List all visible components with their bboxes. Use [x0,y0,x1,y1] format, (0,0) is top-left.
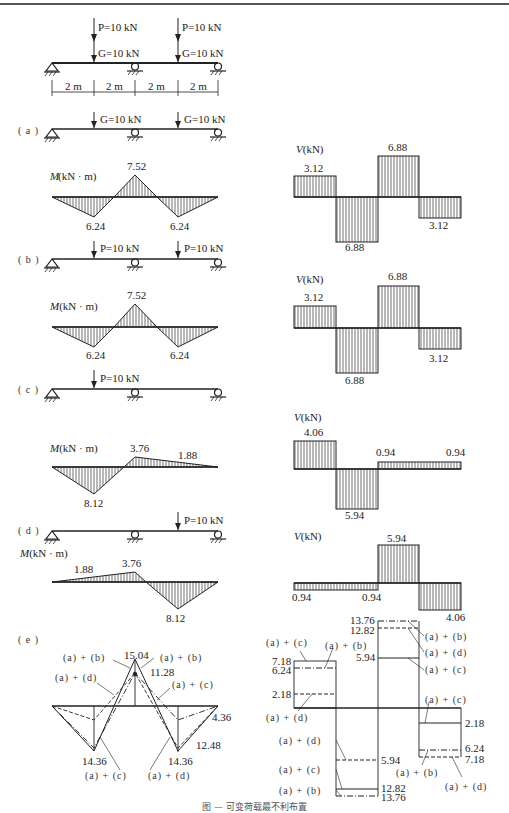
svg-text:6.24: 6.24 [86,349,106,361]
svg-text:6.88: 6.88 [388,270,408,282]
svg-text:11.28: 11.28 [150,666,175,678]
svg-text:P=10 kN: P=10 kN [100,242,140,254]
svg-text:(a) + (c): (a) + (c) [425,664,467,676]
svg-text:(a) + (d): (a) + (d) [445,781,487,793]
svg-text:G=10 kN: G=10 kN [100,113,141,125]
svg-text:4.36: 4.36 [212,711,232,723]
beam-c: P=10 kN [44,370,226,402]
svg-text:6.24: 6.24 [170,220,190,232]
svg-text:14.36: 14.36 [168,755,193,767]
svg-text:15.04: 15.04 [124,649,149,661]
moment-diagram-d: M(kN · m) 1.88 3.76 8.12 [19,547,218,624]
moment-diagram-b: M(kN · m) 7.52 6.24 6.24 [49,289,218,361]
svg-text:0.94: 0.94 [362,591,382,603]
shear-diagram-a: V(kN) 3.12 6.88 6.88 3.12 [294,141,461,253]
svg-text:(a) + (d): (a) + (d) [425,647,467,659]
moment-diagram-a: M (kN · m) 7.52 6.24 6.24 [49,160,218,232]
beam-d: P=10 kN [44,512,226,544]
panel-label-e: ( e ) [18,634,39,646]
svg-text:14.36: 14.36 [82,755,107,767]
svg-text:(a) + (d): (a) + (d) [55,672,97,684]
svg-text:(a) + (d): (a) + (d) [266,712,308,724]
svg-text:7.52: 7.52 [127,160,146,172]
svg-text:5.94: 5.94 [381,754,401,766]
svg-text:(a) + (c): (a) + (c) [172,679,214,691]
svg-text:6.24: 6.24 [272,664,292,676]
svg-text:12.82: 12.82 [350,624,375,636]
svg-text:(a) + (d): (a) + (d) [148,770,190,782]
span-label: 2 m [65,80,82,92]
svg-text:(a) + (b): (a) + (b) [425,631,467,643]
svg-text:2.18: 2.18 [272,688,292,700]
main-beam: P=10 kN P=10 kN G=10 kN G=10 kN 2 m 2 m … [44,18,226,96]
svg-text:M(kN · m): M(kN · m) [19,547,68,560]
svg-text:2.18: 2.18 [465,717,485,729]
svg-text:4.06: 4.06 [446,611,466,623]
svg-text:5.94: 5.94 [356,651,376,663]
svg-text:8.12: 8.12 [84,497,103,509]
svg-text:3.12: 3.12 [429,352,448,364]
svg-text:(a) + (c): (a) + (c) [425,694,467,706]
svg-text:3.12: 3.12 [429,219,448,231]
svg-text:(a) + (b): (a) + (b) [160,652,202,664]
svg-text:5.94: 5.94 [345,509,365,521]
svg-text:1.88: 1.88 [74,563,94,575]
svg-text:V(kN): V(kN) [296,143,324,156]
svg-text:6.24: 6.24 [170,349,190,361]
svg-text:M(kN · m): M(kN · m) [49,442,98,455]
svg-text:0.94: 0.94 [292,591,312,603]
shear-diagram-d: V(kN) 0.94 0.94 5.94 4.06 [292,530,466,623]
load-label-p2: P=10 kN [182,21,222,33]
svg-text:0.94: 0.94 [446,446,466,458]
beam-b: P=10 kN P=10 kN [44,241,226,272]
svg-text:3.12: 3.12 [304,162,323,174]
svg-text:0.94: 0.94 [376,446,396,458]
svg-text:8.12: 8.12 [166,612,185,624]
load-label-p1: P=10 kN [98,21,138,33]
shear-diagram-c: V(kN) 4.06 5.94 0.94 0.94 [294,411,466,521]
svg-text:P=10 kN: P=10 kN [184,514,224,526]
svg-text:7.18: 7.18 [465,753,485,765]
svg-text:(a) + (b): (a) + (b) [63,652,105,664]
svg-text:(a) + (c): (a) + (c) [85,770,127,782]
svg-text:6.88: 6.88 [345,374,365,386]
span-label: 2 m [148,80,165,92]
load-label-g2: G=10 kN [182,47,223,59]
svg-text:(a) + (b): (a) + (b) [396,767,438,779]
panel-label-b: ( b ) [18,254,40,266]
figure-caption: 图 — 可变荷载最不利布置 [0,800,509,813]
span-label: 2 m [106,80,123,92]
svg-text:P=10 kN: P=10 kN [184,242,224,254]
beam-a: G=10 kN G=10 kN [44,112,226,142]
svg-text:V(kN): V(kN) [294,530,322,543]
shear-diagram-b: V(kN) 3.12 6.88 6.88 3.12 [294,270,461,386]
svg-text:V(kN): V(kN) [294,411,322,424]
span-label: 2 m [190,80,207,92]
panel-label-d: ( d ) [18,525,40,537]
svg-text:M(kN · m): M(kN · m) [49,300,98,313]
svg-text:P=10 kN: P=10 kN [100,372,140,384]
svg-text:6.88: 6.88 [388,141,408,153]
svg-text:6.24: 6.24 [86,220,106,232]
svg-text:(a) + (d): (a) + (d) [279,735,321,747]
svg-text:(a) + (b): (a) + (b) [325,640,367,652]
panel-label-c: ( c ) [18,384,39,396]
panel-label-a: ( a ) [18,125,39,137]
svg-text:(a) + (c): (a) + (c) [279,764,321,776]
roller-support-icon [127,63,143,75]
svg-text:(a) + (b): (a) + (b) [279,785,321,797]
svg-text:5.94: 5.94 [387,532,407,544]
svg-text:G=10 kN: G=10 kN [184,113,225,125]
diagram-canvas: P=10 kN P=10 kN G=10 kN G=10 kN 2 m 2 m … [0,0,509,813]
svg-text:7.52: 7.52 [127,289,146,301]
svg-text:6.88: 6.88 [345,241,365,253]
moment-diagram-c: M(kN · m) 3.76 1.88 8.12 [49,442,218,509]
pin-support-icon [44,63,60,76]
svg-text:V(kN): V(kN) [296,273,324,286]
svg-text:3.12: 3.12 [304,291,323,303]
svg-text:3.76: 3.76 [130,442,150,454]
svg-text:3.76: 3.76 [122,557,142,569]
roller-support-icon [210,63,226,75]
svg-text:12.48: 12.48 [196,739,221,751]
svg-text:4.06: 4.06 [304,426,324,438]
